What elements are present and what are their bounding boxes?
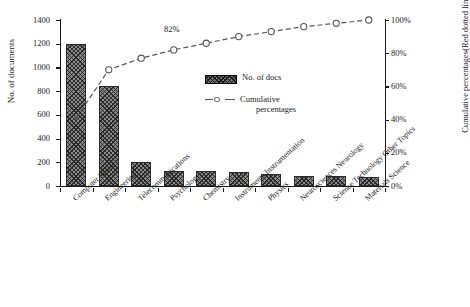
y-axis-right-tick bbox=[385, 20, 389, 21]
legend-item-bars: No. of docs bbox=[205, 72, 325, 84]
legend-label-cumulative: Cumulative bbox=[240, 94, 280, 104]
y-axis-left-tick-label: 800 bbox=[0, 86, 50, 96]
cumulative-point-marker bbox=[333, 20, 339, 26]
y-axis-left-tick-label: 400 bbox=[0, 133, 50, 143]
cumulative-point-marker bbox=[203, 40, 209, 46]
hatched-bar-swatch-icon bbox=[205, 75, 237, 84]
y-axis-right-tick-label: 80% bbox=[391, 48, 407, 58]
chart-legend: No. of docs Cumulative percentages bbox=[205, 72, 325, 124]
y-axis-left-tick-label: 600 bbox=[0, 109, 50, 119]
cumulative-point-marker bbox=[366, 17, 372, 23]
cumulative-point-marker bbox=[268, 29, 274, 35]
y-axis-left-tick-label: 0 bbox=[0, 181, 50, 191]
y-axis-left-tick-label: 1000 bbox=[0, 62, 50, 72]
cumulative-point-marker bbox=[138, 55, 144, 61]
legend-item-cumulative: Cumulative percentages bbox=[205, 94, 325, 114]
y-axis-right-title: Cumulative percentages(Red dotted line) bbox=[460, 0, 470, 143]
cumulative-point-marker bbox=[171, 47, 177, 53]
y-axis-left-tick-label: 1200 bbox=[0, 38, 50, 48]
y-axis-right-tick bbox=[385, 53, 389, 54]
cumulative-point-marker bbox=[106, 67, 112, 73]
x-axis-tick bbox=[60, 188, 61, 192]
y-axis-left-tick-label: 200 bbox=[0, 157, 50, 167]
cumulative-point-marker bbox=[236, 34, 242, 40]
legend-label-no-of-docs: No. of docs bbox=[242, 72, 281, 82]
cumulative-point-marker bbox=[301, 24, 307, 30]
y-axis-right-tick-label: 40% bbox=[391, 114, 407, 124]
y-axis-right-tick-label: 0% bbox=[391, 181, 402, 191]
dashed-line-circle-marker-icon bbox=[205, 96, 235, 104]
y-axis-right-tick-label: 100% bbox=[391, 15, 411, 25]
legend-label-percentages: percentages bbox=[240, 104, 296, 114]
y-axis-right-tick bbox=[385, 86, 389, 87]
cumulative-point-marker bbox=[74, 116, 78, 120]
y-axis-right-tick bbox=[385, 120, 389, 121]
y-axis-right-tick-label: 60% bbox=[391, 81, 407, 91]
y-axis-left-tick-label: 1400 bbox=[0, 15, 50, 25]
annotation-82-percent: 82% bbox=[164, 24, 180, 34]
